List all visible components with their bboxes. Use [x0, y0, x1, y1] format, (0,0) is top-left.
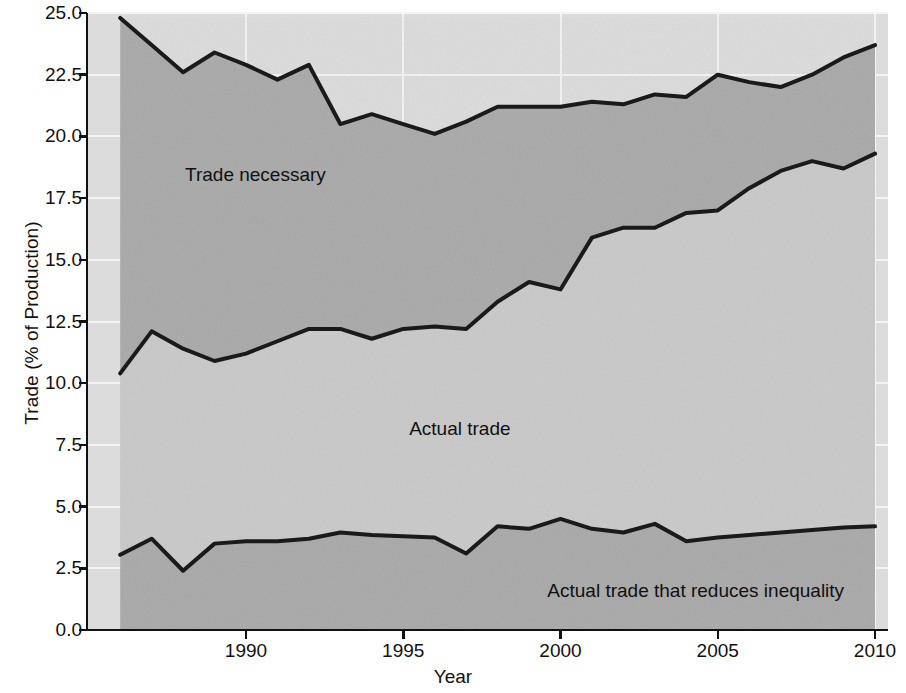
series-annotation-label: Actual trade: [409, 418, 510, 439]
plot-area: Trade necessaryActual tradeActual trade …: [0, 0, 906, 693]
series-annotation-label: Actual trade that reduces inequality: [547, 580, 844, 601]
chart-figure: Trade (% of Production) Year 0.02.55.07.…: [0, 0, 906, 693]
series-annotation-label: Trade necessary: [185, 164, 326, 185]
